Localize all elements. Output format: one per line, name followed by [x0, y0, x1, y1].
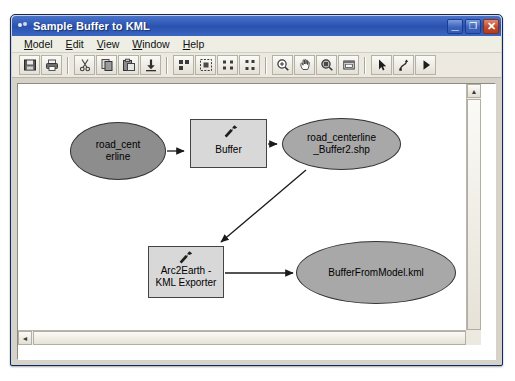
menu-bar: Model Edit View Window Help — [12, 36, 501, 53]
paste-icon — [122, 58, 136, 72]
window-controls: _ ❐ ✕ — [447, 19, 499, 34]
maximize-button[interactable]: ❐ — [465, 19, 481, 34]
auto-layout-button[interactable] — [173, 55, 194, 75]
cut-button[interactable] — [74, 55, 95, 75]
model-properties-icon — [243, 58, 257, 72]
node-label-line2: KML Exporter — [156, 277, 217, 289]
pan-button[interactable] — [294, 55, 315, 75]
toolbar-separator — [67, 57, 69, 74]
node-road-centerline-input[interactable]: road_cent erline — [70, 122, 166, 180]
node-buffer-tool[interactable]: Buffer — [190, 119, 267, 168]
menu-item-edit[interactable]: Edit — [60, 37, 91, 51]
close-icon: ✕ — [484, 20, 498, 32]
select-arrow-icon — [375, 58, 389, 72]
run-icon — [419, 58, 433, 72]
connect-button[interactable] — [393, 55, 414, 75]
save-button[interactable] — [19, 55, 40, 75]
diagram-properties-icon — [221, 58, 235, 72]
fit-page-icon — [199, 58, 213, 72]
node-label: road_centerline _Buffer2.shp — [304, 132, 379, 156]
auto-layout-icon — [177, 58, 191, 72]
node-arc2earth-kml-exporter[interactable]: Arc2Earth - KML Exporter — [148, 246, 224, 298]
model-builder-window: Sample Buffer to KML _ ❐ ✕ Model Edit Vi… — [10, 14, 503, 366]
vertical-scroll-thumb[interactable] — [467, 99, 481, 330]
menu-label-edit: dit — [73, 38, 84, 50]
hammer-icon — [177, 250, 194, 265]
copy-button[interactable] — [96, 55, 117, 75]
menu-item-window[interactable]: Window — [126, 37, 176, 51]
cut-icon — [78, 58, 92, 72]
menu-label-view: iew — [104, 38, 120, 50]
diagram-properties-button[interactable] — [217, 55, 238, 75]
node-label-line1: road_cent — [96, 139, 140, 151]
node-label-line1: road_centerline — [307, 132, 376, 144]
full-extent-button[interactable] — [338, 55, 359, 75]
add-data-button[interactable] — [140, 55, 161, 75]
window-title: Sample Buffer to KML — [33, 20, 447, 32]
model-icon — [17, 20, 29, 32]
node-label: Buffer — [212, 144, 245, 156]
chevron-up-icon: ▲ — [471, 88, 478, 95]
run-button[interactable] — [415, 55, 436, 75]
vertical-scrollbar[interactable]: ▲ ▼ — [466, 84, 481, 345]
title-bar[interactable]: Sample Buffer to KML _ ❐ ✕ — [12, 16, 501, 36]
minimize-icon: _ — [448, 18, 462, 31]
copy-icon — [100, 58, 114, 72]
menu-item-help[interactable]: Help — [177, 37, 212, 51]
node-bufferfrommodel-kml[interactable]: BufferFromModel.kml — [296, 241, 456, 304]
node-label: Arc2Earth - KML Exporter — [153, 265, 220, 289]
pan-icon — [298, 58, 312, 72]
chevron-left-icon: ◄ — [22, 335, 29, 342]
menu-item-model[interactable]: Model — [18, 37, 60, 51]
toolbar-separator — [265, 57, 267, 74]
toolbar-separator — [364, 57, 366, 74]
add-data-icon — [144, 58, 158, 72]
node-road-centerline-buffer2-shp[interactable]: road_centerline _Buffer2.shp — [282, 118, 401, 170]
hammer-icon — [222, 124, 239, 139]
node-label: road_cent erline — [93, 139, 143, 163]
connector-output-to-exporter — [221, 170, 306, 242]
horizontal-scrollbar[interactable]: ◄ ► — [18, 330, 481, 345]
toolbar — [12, 53, 501, 78]
toolbar-separator — [166, 57, 168, 74]
zoom-in-button[interactable] — [272, 55, 293, 75]
print-icon — [45, 58, 59, 72]
scrollbar-corner — [466, 330, 481, 345]
model-canvas[interactable]: road_cent erline Buffer road_centerline … — [18, 84, 481, 345]
zoom-in-icon — [276, 58, 290, 72]
node-label: BufferFromModel.kml — [325, 267, 426, 279]
model-properties-button[interactable] — [239, 55, 260, 75]
scroll-left-button[interactable]: ◄ — [18, 331, 32, 345]
close-button[interactable]: ✕ — [483, 19, 499, 34]
zoom-selected-button[interactable] — [316, 55, 337, 75]
full-extent-icon — [342, 58, 356, 72]
connect-icon — [397, 58, 411, 72]
scroll-up-button[interactable]: ▲ — [467, 84, 481, 98]
menu-label-model: odel — [33, 38, 53, 50]
zoom-selected-icon — [320, 58, 334, 72]
fit-page-button[interactable] — [195, 55, 216, 75]
select-arrow-button[interactable] — [371, 55, 392, 75]
menu-label-help: elp — [190, 38, 204, 50]
minimize-button[interactable]: _ — [447, 19, 463, 34]
node-label-line2: _Buffer2.shp — [307, 144, 376, 156]
model-canvas-area: road_cent erline Buffer road_centerline … — [17, 83, 496, 360]
menu-item-view[interactable]: View — [91, 37, 127, 51]
node-label-line2: erline — [96, 151, 140, 163]
horizontal-scroll-thumb[interactable] — [33, 331, 466, 345]
save-icon — [23, 58, 37, 72]
node-label-line1: Arc2Earth - — [156, 265, 217, 277]
print-button[interactable] — [41, 55, 62, 75]
menu-label-window: indow — [142, 38, 169, 50]
paste-button[interactable] — [118, 55, 139, 75]
maximize-icon: ❐ — [466, 20, 480, 33]
